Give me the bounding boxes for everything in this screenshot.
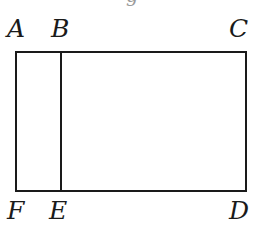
rectangle-diagram-svg: [0, 0, 262, 233]
vertex-label-d: D: [229, 198, 249, 223]
vertex-label-a: A: [7, 16, 25, 41]
vertex-label-e: E: [49, 198, 67, 223]
geometry-figure-canvas: g A B C F E D: [0, 0, 262, 233]
vertex-label-c: C: [229, 16, 248, 41]
outer-rectangle-shape: [16, 52, 246, 191]
vertex-label-b: B: [51, 16, 69, 41]
vertex-label-f: F: [7, 198, 24, 223]
